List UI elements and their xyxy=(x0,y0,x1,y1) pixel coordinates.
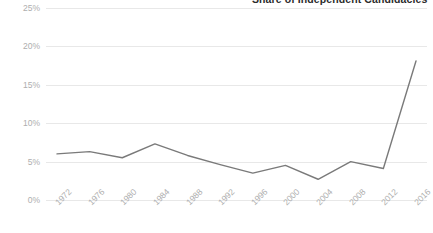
y-axis-tick-label: 10% xyxy=(23,118,40,128)
y-axis-tick-label: 25% xyxy=(23,3,40,13)
chart-title: Share of Independent Candidacies xyxy=(252,0,427,5)
chart-container: Share of Independent Candidacies 0%5%10%… xyxy=(0,0,433,233)
y-axis-tick-label: 0% xyxy=(28,195,40,205)
series-line-independent-candidacies xyxy=(57,61,416,179)
x-axis-tick-labels: 1972197619801984198819921996200020042008… xyxy=(46,200,427,233)
y-axis-tick-label: 15% xyxy=(23,80,40,90)
plot-area xyxy=(46,8,427,200)
y-axis-tick-label: 20% xyxy=(23,41,40,51)
y-axis-tick-label: 5% xyxy=(28,157,40,167)
series-line-chart xyxy=(46,8,427,200)
y-axis-tick-labels: 0%5%10%15%20%25% xyxy=(0,8,40,200)
